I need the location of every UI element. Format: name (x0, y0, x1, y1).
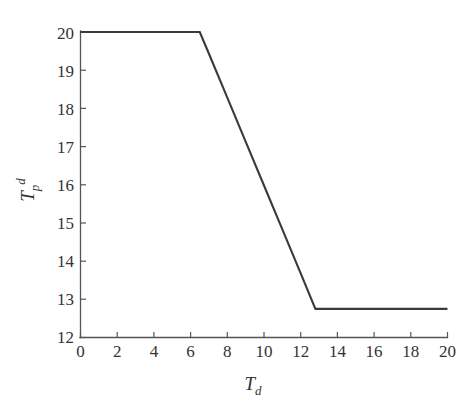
y-tick-label-16: 16 (57, 176, 74, 195)
y-tick-label-14: 14 (57, 252, 75, 271)
y-axis-title-superscript: d (13, 178, 28, 185)
x-tick-label-18: 18 (402, 342, 419, 361)
x-tick-label-8: 8 (223, 342, 232, 361)
y-tick-label-13: 13 (57, 290, 74, 309)
x-tick-marks (81, 332, 448, 338)
x-tick-label-14: 14 (329, 342, 347, 361)
x-tick-label-4: 4 (150, 342, 159, 361)
x-axis-title: Td (244, 373, 262, 398)
y-tick-label-19: 19 (57, 62, 74, 81)
x-tick-label-20: 20 (439, 342, 456, 361)
y-tick-label-15: 15 (57, 214, 74, 233)
svg-text:Tpd: Tpd (13, 178, 42, 202)
data-series-line (81, 32, 448, 309)
y-axis-title-subscript: p (27, 184, 42, 192)
chart-figure: 12 13 14 15 16 17 18 19 20 0 2 4 6 8 10 … (0, 0, 470, 406)
y-tick-labels: 12 13 14 15 16 17 18 19 20 (57, 24, 75, 348)
svg-text:Td: Td (244, 373, 262, 398)
y-tick-marks (81, 32, 87, 338)
y-tick-label-12: 12 (57, 328, 74, 347)
y-axis-title: Tpd (13, 178, 42, 202)
x-tick-labels: 0 2 4 6 8 10 12 14 16 18 20 (76, 342, 456, 361)
x-tick-label-2: 2 (113, 342, 122, 361)
x-tick-label-10: 10 (256, 342, 273, 361)
x-tick-label-0: 0 (76, 342, 85, 361)
x-axis-title-subscript: d (255, 383, 262, 398)
y-tick-label-18: 18 (57, 100, 74, 119)
y-tick-label-17: 17 (57, 138, 75, 157)
y-tick-label-20: 20 (57, 24, 74, 43)
x-tick-label-6: 6 (186, 342, 195, 361)
chart-plot-area: 12 13 14 15 16 17 18 19 20 0 2 4 6 8 10 … (0, 0, 470, 406)
x-tick-label-12: 12 (292, 342, 309, 361)
x-tick-label-16: 16 (366, 342, 383, 361)
